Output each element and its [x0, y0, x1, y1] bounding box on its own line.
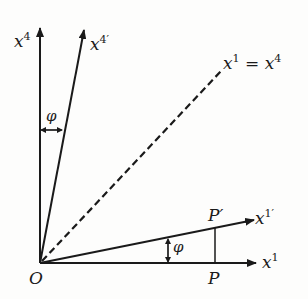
x1-axis-label: x1: [262, 254, 279, 271]
x1-prime-axis-label: x1′: [255, 210, 274, 227]
upper-angle-phi-label: φ: [46, 109, 57, 124]
origin-label: O: [29, 270, 43, 287]
lower-angle-phi-label: φ: [173, 240, 184, 255]
x1-prime-axis: [40, 220, 254, 263]
point-p-prime-label: P′: [208, 207, 223, 224]
point-p-label: P: [208, 270, 219, 287]
rotated-axes-diagram: x4 x4′ x1 = x4 x1′ x1 O P P′ φ φ: [0, 0, 308, 299]
x4-axis-label: x4: [14, 33, 31, 50]
x4-prime-axis: [40, 30, 84, 263]
x4-prime-axis-label: x4′: [90, 36, 109, 53]
diagonal-label: x1 = x4: [223, 55, 281, 72]
